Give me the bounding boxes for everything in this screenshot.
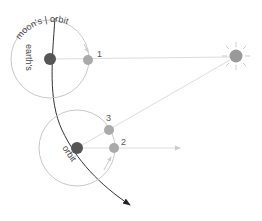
moon-motion-arrow-2 xyxy=(104,157,111,170)
moon-position-1 xyxy=(83,55,93,65)
position-label-3: 3 xyxy=(106,113,111,123)
sun-ray-1 xyxy=(50,57,230,59)
moon-position-3 xyxy=(104,125,114,135)
earths-label: earth's xyxy=(24,44,34,71)
earth-orbital-path xyxy=(52,18,130,205)
orbit-label-top: moon's | orbit xyxy=(14,14,71,41)
moon-orbit-diagram: moon's | orbit earth's orbit 1 3 2 xyxy=(0,0,262,221)
earth-position-1 xyxy=(44,53,56,65)
position-label-1: 1 xyxy=(97,49,102,59)
position-label-2: 2 xyxy=(121,137,126,147)
moon-position-2 xyxy=(109,143,119,153)
sun-ray-3 xyxy=(77,60,230,148)
earth-position-2 xyxy=(71,142,83,154)
sun xyxy=(230,50,243,63)
